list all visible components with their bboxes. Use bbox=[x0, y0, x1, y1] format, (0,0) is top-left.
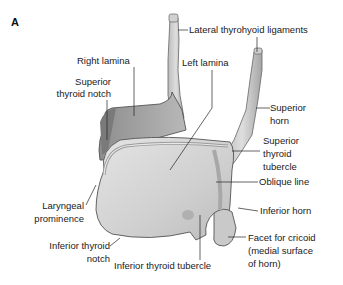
label-superior-horn-1: Superior bbox=[270, 102, 306, 114]
label-facet-for-cricoid-2: (medial surface bbox=[248, 245, 313, 257]
label-lateral-thyrohyoid-ligaments: Lateral thyrohyoid ligaments bbox=[189, 24, 308, 36]
label-superior-thyroid-notch-2: thyroid notch bbox=[40, 88, 111, 100]
label-superior-thyroid-tubercle-2: thyroid bbox=[263, 148, 292, 160]
label-oblique-line: Oblique line bbox=[259, 176, 309, 188]
label-superior-thyroid-notch-1: Superior bbox=[48, 76, 111, 88]
label-superior-thyroid-tubercle-3: tubercle bbox=[263, 161, 297, 173]
label-laryngeal-prominence-1: Laryngeal bbox=[10, 200, 84, 212]
label-laryngeal-prominence-2: prominence bbox=[10, 213, 84, 225]
label-superior-horn-2: horn bbox=[270, 115, 289, 127]
label-superior-thyroid-tubercle-1: Superior bbox=[263, 135, 299, 147]
label-facet-for-cricoid-1: Facet for cricoid bbox=[248, 232, 316, 244]
label-right-lamina: Right lamina bbox=[77, 55, 130, 67]
inferior-horn bbox=[214, 209, 236, 246]
label-facet-for-cricoid-3: of horn) bbox=[248, 258, 281, 270]
label-left-lamina: Left lamina bbox=[182, 57, 228, 69]
label-inferior-thyroid-tubercle: Inferior thyroid tubercle bbox=[114, 260, 211, 272]
panel-label: A bbox=[11, 16, 19, 28]
label-inferior-thyroid-notch-1: Inferior thyroid bbox=[10, 240, 110, 252]
label-inferior-thyroid-notch-2: notch bbox=[10, 253, 110, 265]
label-inferior-horn: Inferior horn bbox=[260, 205, 311, 217]
